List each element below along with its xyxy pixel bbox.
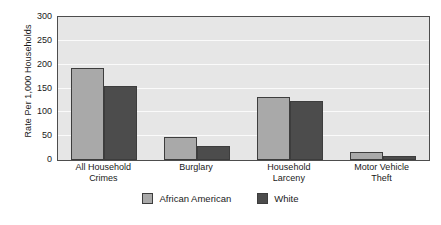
y-axis-tick-label: 150: [37, 83, 52, 93]
legend-entry: White: [257, 193, 298, 204]
y-axis-tick-label: 0: [47, 154, 52, 164]
legend-label: African American: [159, 193, 231, 204]
y-axis-tick-label: 250: [37, 35, 52, 45]
bar: [164, 137, 197, 160]
x-axis-tick-label: HouseholdLarceny: [243, 162, 336, 184]
legend-label: White: [274, 193, 298, 204]
x-axis-tick-label-line: Theft: [335, 173, 428, 184]
legend-entry: African American: [142, 193, 231, 204]
x-axis-tick-label-line: Household: [243, 162, 336, 173]
chart-legend: African AmericanWhite: [0, 193, 441, 204]
y-axis-tick-label: 300: [37, 11, 52, 21]
plot-area: [57, 16, 430, 161]
bar-chart-figure: Rate Per 1,000 Households 05010015020025…: [0, 0, 441, 225]
legend-swatch-icon: [257, 193, 268, 204]
x-axis-tick-label: Motor VehicleTheft: [335, 162, 428, 184]
bar: [257, 97, 290, 160]
bar: [383, 156, 416, 160]
y-axis-tick-label: 100: [37, 106, 52, 116]
legend-swatch-icon: [142, 193, 153, 204]
x-axis-tick-label-line: Crimes: [57, 173, 150, 184]
x-axis-tick-label-line: Motor Vehicle: [335, 162, 428, 173]
x-axis-tick-label-line: Larceny: [243, 173, 336, 184]
y-axis-tick-label: 50: [42, 130, 52, 140]
bar: [290, 101, 323, 160]
bar: [104, 86, 137, 160]
y-axis-tick-labels: 050100150200250300: [25, 11, 52, 161]
bar: [71, 68, 104, 160]
y-axis-tick-label: 200: [37, 59, 52, 69]
x-axis-tick-label: All HouseholdCrimes: [57, 162, 150, 184]
bar: [197, 146, 230, 160]
x-axis-tick-label-line: Burglary: [150, 162, 243, 173]
x-axis-tick-label: Burglary: [150, 162, 243, 173]
x-axis-tick-labels: All HouseholdCrimesBurglaryHouseholdLarc…: [57, 162, 428, 190]
bars-layer: [58, 17, 429, 160]
bar: [350, 152, 383, 160]
x-axis-tick-label-line: All Household: [57, 162, 150, 173]
